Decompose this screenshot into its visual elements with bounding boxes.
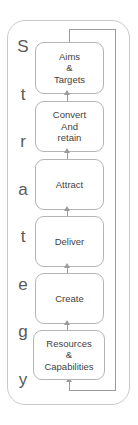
box-line: Deliver <box>55 236 85 248</box>
box-line: Convert <box>53 109 86 121</box>
box-line: Targets <box>54 74 85 86</box>
strategy-letter-5: t <box>21 228 26 245</box>
box-line: & <box>66 62 72 74</box>
strategy-process-diagram: S t r a t e g y Aims & Targets Convert A… <box>0 0 138 425</box>
strategy-letter-6: e <box>18 276 27 293</box>
strategy-letter-1: S <box>17 38 28 55</box>
box-line: Create <box>55 293 84 305</box>
strategy-letter-2: t <box>21 86 26 103</box>
process-box-attract[interactable]: Attract <box>35 159 104 210</box>
feedback-loop-bottom-segment <box>69 390 116 391</box>
process-box-deliver[interactable]: Deliver <box>35 216 104 267</box>
box-line: And <box>61 121 78 133</box>
box-line: & <box>66 349 72 361</box>
strategy-letter-7: g <box>18 323 27 340</box>
strategy-letter-4: a <box>18 181 27 198</box>
process-box-aims-targets[interactable]: Aims & Targets <box>35 42 104 94</box>
box-line: retain <box>58 132 82 144</box>
strategy-letter-8: y <box>19 371 28 388</box>
strategy-letter-3: r <box>20 133 26 150</box>
feedback-loop-arrow-icon <box>69 381 70 391</box>
feedback-loop-right-segment <box>115 29 116 391</box>
process-box-resources-capabilities[interactable]: Resources & Capabilities <box>33 330 105 380</box>
box-line: Resources <box>46 338 91 350</box>
feedback-loop-top-stub <box>69 29 70 43</box>
box-line: Aims <box>59 51 80 63</box>
process-box-create[interactable]: Create <box>35 273 104 324</box>
process-box-convert-and-retain[interactable]: Convert And retain <box>35 101 104 152</box>
box-line: Capabilities <box>44 361 93 373</box>
box-line: Attract <box>56 179 83 191</box>
strategy-vertical-label: S t r a t e g y <box>11 38 35 388</box>
feedback-loop-top-segment <box>69 29 116 30</box>
